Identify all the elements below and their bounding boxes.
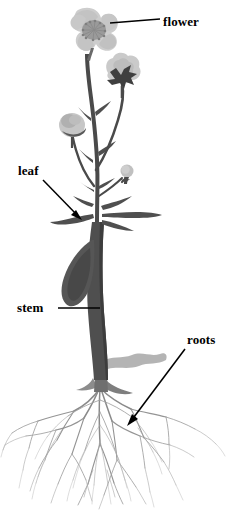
plant-illustration [0,0,226,511]
leaf-right-lower [102,220,134,231]
roots-group [1,386,225,509]
leader-flower [110,19,160,23]
leaf-high-right [95,101,111,116]
leaf-right-main [102,212,162,218]
leaf-left-main [50,214,94,225]
label-flower: flower [163,15,199,28]
stem-upper [85,54,99,222]
bud-left-open [59,113,86,148]
leaf-right-upper [101,196,132,210]
label-roots: roots [187,333,215,346]
flower-main [70,8,117,61]
label-stem: stem [17,301,43,314]
withered-leaf [100,353,166,369]
leaf-left-upper [73,196,94,207]
label-leaf: leaf [18,164,39,177]
branch-stalks [72,84,127,196]
leaf-mid-left [79,149,93,163]
leader-leaf [43,180,82,220]
plant-diagram: flower leaf stem roots [0,0,226,511]
